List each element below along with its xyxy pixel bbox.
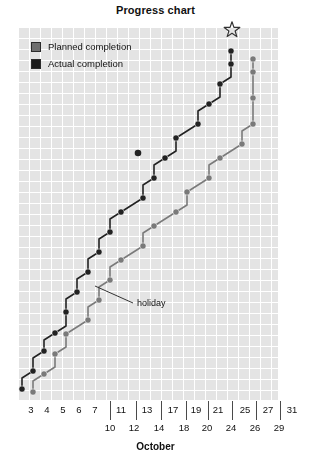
data-point xyxy=(206,101,212,107)
x-axis-separator xyxy=(208,401,209,420)
series-line-actual xyxy=(22,51,231,389)
x-axis-separator xyxy=(110,401,111,420)
data-point xyxy=(195,121,201,127)
data-point xyxy=(74,289,80,295)
data-point xyxy=(85,317,91,323)
x-tick-label-bottom: 29 xyxy=(259,422,299,433)
x-axis-separator xyxy=(256,401,257,420)
star-milestone-icon xyxy=(224,22,240,37)
legend-item-actual: Actual completion xyxy=(31,57,181,71)
plot-area: holiday xyxy=(19,28,278,400)
chart-legend: Planned completion Actual completion xyxy=(31,40,181,74)
data-point xyxy=(118,209,124,215)
data-point xyxy=(118,257,124,263)
data-point xyxy=(96,249,102,255)
legend-swatch-actual-icon xyxy=(31,59,41,69)
data-point xyxy=(63,331,69,337)
x-axis-separator xyxy=(136,401,137,420)
data-point xyxy=(151,223,157,229)
data-point xyxy=(140,195,146,201)
data-point xyxy=(162,155,168,161)
data-point xyxy=(184,189,190,195)
data-point xyxy=(239,141,245,147)
x-tick-label-top: 31 xyxy=(272,404,311,415)
data-point xyxy=(217,155,223,161)
legend-swatch-planned-icon xyxy=(31,42,41,52)
progress-chart: Progress chart holiday Planned completio… xyxy=(0,0,311,463)
x-axis-separator xyxy=(232,401,233,420)
data-point xyxy=(250,69,256,75)
data-point xyxy=(41,348,47,354)
data-point xyxy=(63,309,69,315)
x-axis-title: October xyxy=(0,441,311,452)
data-point xyxy=(30,368,36,374)
data-point xyxy=(206,175,212,181)
x-axis-separator xyxy=(161,401,162,420)
data-point xyxy=(250,95,256,101)
data-point xyxy=(52,330,58,336)
holiday-annotation-label: holiday xyxy=(137,298,166,308)
data-point xyxy=(85,269,91,275)
data-point xyxy=(217,81,223,87)
data-point xyxy=(96,297,102,303)
data-point xyxy=(151,175,157,181)
data-point xyxy=(140,243,146,249)
data-point xyxy=(52,351,58,357)
isolated-data-point xyxy=(135,150,142,157)
data-point xyxy=(173,209,179,215)
legend-item-planned: Planned completion xyxy=(31,40,181,54)
data-point xyxy=(41,371,47,377)
data-point xyxy=(30,389,36,395)
data-point xyxy=(250,56,256,62)
x-axis-separator xyxy=(280,401,281,420)
legend-label-actual: Actual completion xyxy=(48,59,123,69)
data-point xyxy=(19,386,25,392)
x-axis: 3456711131719212527311012141820242629 Oc… xyxy=(0,400,311,463)
data-point xyxy=(173,135,179,141)
x-axis-separator xyxy=(186,401,187,420)
legend-label-planned: Planned completion xyxy=(48,42,131,52)
series-line-planned xyxy=(33,59,253,392)
data-point xyxy=(250,121,256,127)
data-point xyxy=(228,61,234,67)
data-point xyxy=(107,229,113,235)
data-point xyxy=(107,277,113,283)
data-point xyxy=(228,48,234,54)
